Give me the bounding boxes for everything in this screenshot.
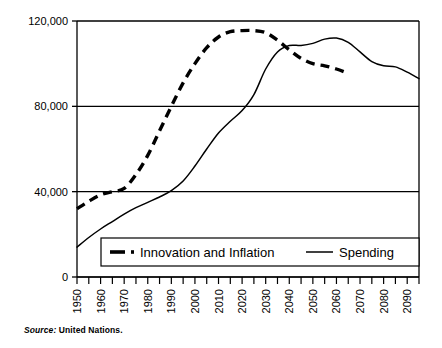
- legend-label-spending: Spending: [339, 245, 394, 260]
- x-tick-label: 1970: [118, 289, 130, 313]
- y-axis-ticks: [72, 21, 77, 277]
- line-chart: 040,00080,000120,000 1950196019701980199…: [0, 0, 442, 348]
- x-tick-label: 1950: [71, 289, 83, 313]
- x-tick-label: 2090: [401, 289, 413, 313]
- x-tick-label: 2070: [354, 289, 366, 313]
- chart-legend: Innovation and InflationSpending: [101, 238, 419, 266]
- x-tick-label: 1960: [95, 289, 107, 313]
- source-label: Source:: [24, 325, 56, 335]
- x-tick-label: 1990: [165, 289, 177, 313]
- x-axis-ticks: [77, 277, 419, 284]
- x-tick-label: 2060: [330, 289, 342, 313]
- x-tick-label: 2080: [378, 289, 390, 313]
- x-tick-label: 2020: [236, 289, 248, 313]
- y-tick-label: 0: [62, 271, 68, 283]
- series-line-innovation-and-inflation: [77, 30, 348, 208]
- y-tick-label: 120,000: [28, 15, 68, 27]
- y-axis-labels: 040,00080,000120,000: [28, 15, 68, 283]
- x-tick-label: 2040: [283, 289, 295, 313]
- x-axis-labels: 1950196019701980199020002010202020302040…: [71, 289, 413, 313]
- x-tick-label: 2050: [307, 289, 319, 313]
- x-tick-label: 2010: [213, 289, 225, 313]
- series-line-spending: [77, 38, 419, 247]
- chart-figure: 040,00080,000120,000 1950196019701980199…: [0, 0, 442, 348]
- y-tick-label: 40,000: [34, 186, 68, 198]
- legend-label-innovation-and-inflation: Innovation and Inflation: [140, 245, 274, 260]
- data-series-group: [77, 30, 419, 247]
- x-tick-label: 2030: [260, 289, 272, 313]
- x-tick-label: 1980: [142, 289, 154, 313]
- source-text: United Nations.: [59, 325, 123, 335]
- y-tick-label: 80,000: [34, 100, 68, 112]
- x-tick-label: 2000: [189, 289, 201, 313]
- source-note: Source: United Nations.: [24, 325, 123, 335]
